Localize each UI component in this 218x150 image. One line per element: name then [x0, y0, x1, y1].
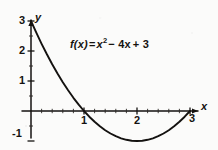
x-tick-label-2: 2: [134, 115, 140, 126]
x-tick-label-3: 3: [189, 113, 195, 124]
equation-annotation: f(x)=x2− 4x+ 3: [70, 39, 150, 50]
equation-lhs: f(x): [70, 38, 88, 50]
equation-equals: =: [88, 38, 97, 50]
y-axis-label: y: [35, 12, 41, 23]
y-tick-label-3: 3: [19, 15, 25, 26]
equation-term2: − 4x: [107, 38, 132, 50]
function-plot-figure: f(x)=x2− 4x+ 3 y x 3 2 1 -1 1 2 3: [0, 0, 218, 150]
plot-canvas: [0, 0, 218, 150]
x-axis-label: x: [201, 101, 207, 112]
y-tick-label-neg1: -1: [12, 128, 22, 139]
y-tick-label-2: 2: [19, 45, 25, 56]
y-tick-label-1: 1: [19, 75, 25, 86]
y-axis: [28, 20, 33, 138]
equation-term3: + 3: [132, 38, 150, 50]
x-tick-label-1: 1: [81, 115, 87, 126]
x-axis: [22, 108, 198, 113]
